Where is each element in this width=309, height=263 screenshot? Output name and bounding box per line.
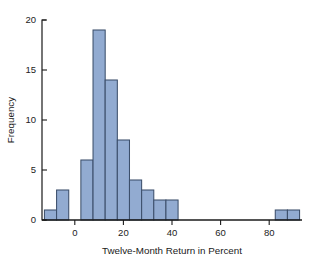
histogram-bar: [142, 190, 154, 220]
x-tick-label: 40: [167, 227, 178, 238]
x-tick-label: 60: [215, 227, 226, 238]
histogram-bar: [105, 80, 117, 220]
histogram-bar: [44, 210, 56, 220]
y-axis-ticks: 05101520: [25, 14, 47, 225]
histogram-bar: [81, 160, 93, 220]
y-tick-label: 20: [25, 14, 36, 25]
x-tick-label: 0: [72, 227, 77, 238]
histogram-bar: [275, 210, 287, 220]
histogram-bar: [154, 200, 166, 220]
y-tick-label: 5: [31, 164, 36, 175]
histogram-chart: 05101520 020406080 Frequency Twelve-Mont…: [0, 0, 309, 263]
histogram-bar: [129, 180, 141, 220]
y-tick-label: 15: [25, 64, 36, 75]
histogram-svg: 05101520 020406080 Frequency Twelve-Mont…: [0, 0, 309, 263]
histogram-bar: [166, 200, 178, 220]
histogram-bar: [57, 190, 69, 220]
histogram-bar: [117, 140, 129, 220]
x-axis-ticks: 020406080: [72, 220, 274, 238]
x-axis-title: Twelve-Month Return in Percent: [102, 245, 242, 256]
x-tick-label: 80: [264, 227, 275, 238]
y-tick-label: 0: [31, 214, 36, 225]
y-axis-title: Frequency: [5, 97, 16, 143]
bars-group: [44, 30, 299, 220]
histogram-bar: [93, 30, 105, 220]
histogram-bar: [287, 210, 299, 220]
y-tick-label: 10: [25, 114, 36, 125]
x-tick-label: 20: [118, 227, 129, 238]
